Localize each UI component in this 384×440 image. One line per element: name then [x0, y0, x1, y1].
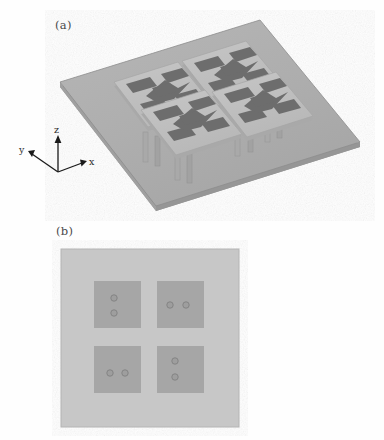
axis-z-arrowhead: [55, 135, 62, 143]
axis-label-x: x: [89, 156, 95, 167]
panel-a-perspective-view: z y x: [0, 0, 384, 225]
coordinate-axes: z y x: [18, 124, 95, 172]
patch-top-right: [157, 281, 204, 328]
feed-via: [183, 302, 189, 308]
axis-label-z: z: [54, 124, 59, 135]
ground-plane-board: [61, 249, 239, 427]
axis-label-y: y: [18, 144, 25, 155]
patch-top-left: [94, 281, 141, 328]
panel-label-b: (b): [56, 224, 73, 238]
feed-via: [111, 295, 117, 301]
feed-via: [122, 370, 128, 376]
feed-via: [107, 370, 113, 376]
panel-a-artwork: [60, 20, 360, 211]
panel-b-artwork: [61, 249, 239, 427]
figure-container: z y x (a): [0, 0, 384, 440]
axis-x-arrowhead: [80, 160, 87, 167]
patch-bottom-left: [94, 346, 141, 393]
feed-via: [172, 358, 178, 364]
axis-x-line: [58, 163, 82, 172]
patch-area: [94, 346, 141, 393]
patch-area: [157, 346, 204, 393]
patch-area: [157, 281, 204, 328]
axis-y-line: [32, 154, 58, 172]
panel-label-a: (a): [55, 18, 72, 32]
patch-area: [94, 281, 141, 328]
feed-via: [111, 310, 117, 316]
patch-bottom-right: [157, 346, 204, 393]
feed-via: [172, 374, 178, 380]
panel-b-plan-view: [0, 225, 384, 440]
feed-via: [167, 302, 173, 308]
